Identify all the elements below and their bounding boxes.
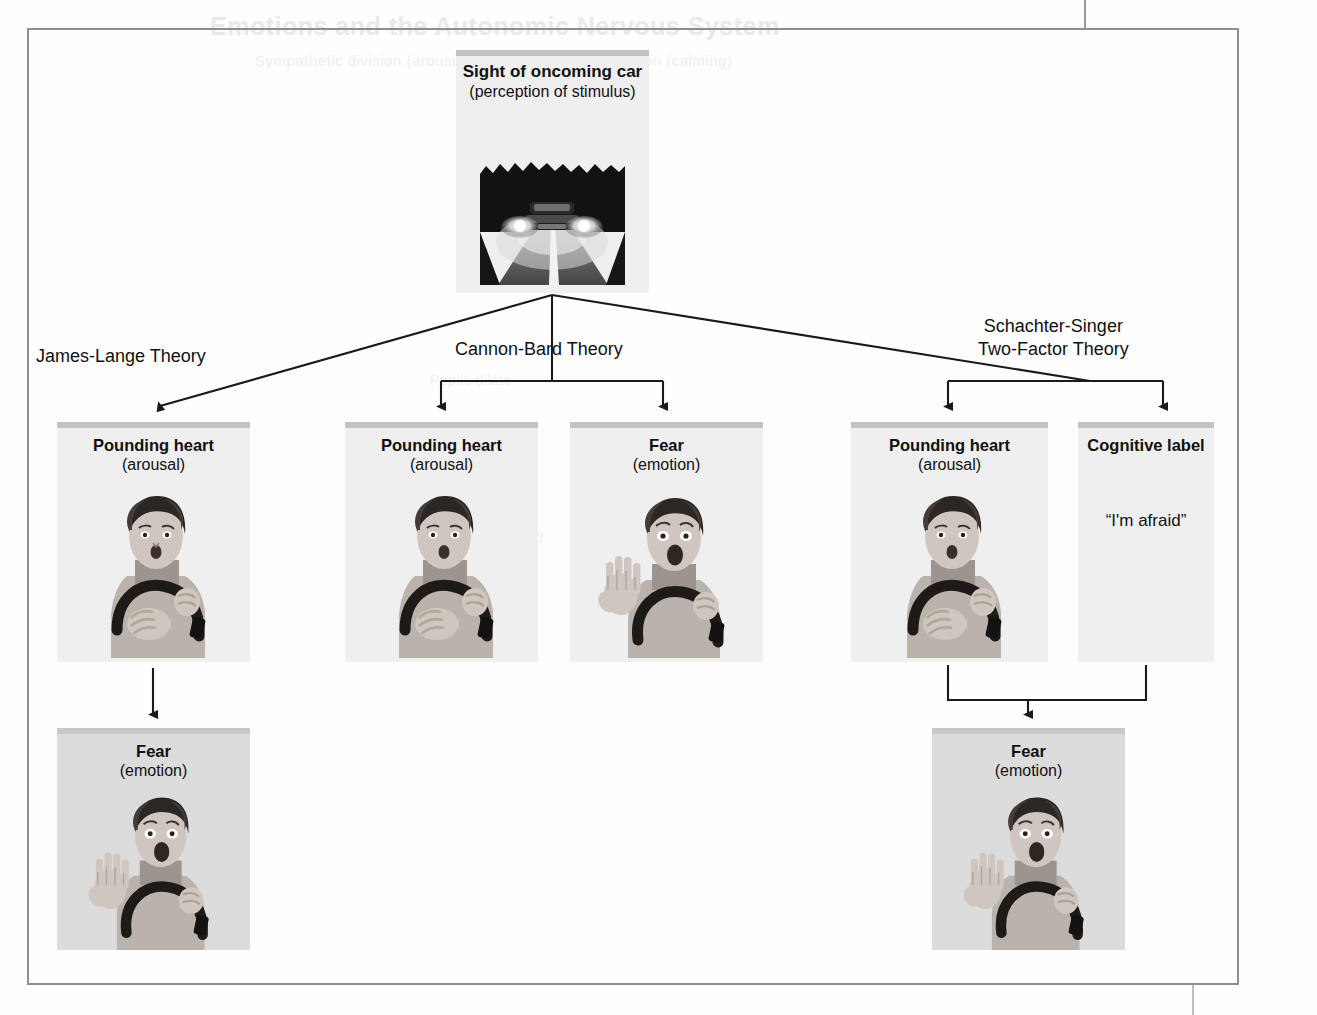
node-band — [1078, 422, 1214, 428]
theory-label-line1: Schachter-Singer — [978, 315, 1129, 338]
node-band — [851, 422, 1048, 428]
node-ss-label: Cognitive label “I'm afraid” — [1078, 422, 1214, 662]
node-band — [57, 422, 250, 428]
node-ss-arousal: Pounding heart (arousal) — [851, 422, 1048, 662]
diagram-page: Emotions and the Autonomic Nervous Syste… — [0, 0, 1317, 1015]
node-band — [345, 422, 538, 428]
node-headline: Pounding heart — [345, 436, 538, 455]
page-gutter-top — [1084, 0, 1086, 28]
node-headline: Fear — [570, 436, 763, 455]
woman-hand-raised-screaming-icon — [81, 790, 229, 950]
node-subline: (emotion) — [57, 761, 250, 780]
node-band — [932, 728, 1125, 734]
node-band — [57, 728, 250, 734]
oncoming-car-icon — [480, 160, 625, 285]
theory-label-line2: Two-Factor Theory — [978, 338, 1129, 361]
node-stimulus: Sight of oncoming car (perception of sti… — [456, 50, 649, 293]
node-cb-arousal: Pounding heart (arousal) — [345, 422, 538, 662]
theory-label-cannon-bard: Cannon-Bard Theory — [455, 338, 623, 361]
node-headline: Cognitive label — [1078, 436, 1214, 455]
node-jl-arousal: Pounding heart (arousal) — [57, 422, 250, 662]
node-band — [456, 50, 649, 56]
node-subline: (arousal) — [57, 455, 250, 474]
theory-label-line1: Cannon-Bard Theory — [455, 338, 623, 361]
node-subline: (perception of stimulus) — [456, 82, 649, 101]
node-ss-fear: Fear (emotion) — [932, 728, 1125, 950]
node-quote: “I'm afraid” — [1078, 511, 1214, 531]
node-jl-fear: Fear (emotion) — [57, 728, 250, 950]
page-gutter-bottom — [1192, 985, 1194, 1015]
woman-hand-raised-screaming-icon — [594, 490, 742, 658]
woman-hand-on-chest-icon — [87, 490, 222, 658]
theory-label-james-lange: James-Lange Theory — [36, 345, 206, 368]
node-headline: Sight of oncoming car — [456, 62, 649, 82]
node-headline: Pounding heart — [57, 436, 250, 455]
node-cb-fear: Fear (emotion) — [570, 422, 763, 662]
theory-label-schachter-singer: Schachter-Singer Two-Factor Theory — [978, 315, 1129, 361]
node-headline: Fear — [57, 742, 250, 761]
node-subline: (emotion) — [932, 761, 1125, 780]
theory-label-line1: James-Lange Theory — [36, 345, 206, 368]
woman-hand-on-chest-icon — [375, 490, 510, 658]
node-headline: Fear — [932, 742, 1125, 761]
node-subline: (arousal) — [851, 455, 1048, 474]
node-headline: Pounding heart — [851, 436, 1048, 455]
woman-hand-raised-screaming-icon — [956, 790, 1104, 950]
woman-hand-on-chest-icon — [883, 490, 1018, 658]
node-subline: (emotion) — [570, 455, 763, 474]
node-subline: (arousal) — [345, 455, 538, 474]
node-band — [570, 422, 763, 428]
